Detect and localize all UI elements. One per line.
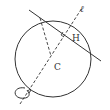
rotation-arrow-icon — [15, 88, 31, 99]
diagram-canvas: ℓ H C — [0, 0, 110, 110]
radius-segment — [40, 18, 51, 56]
point-label-c: C — [54, 62, 61, 72]
secant-line — [29, 10, 101, 61]
point-label-h: H — [72, 33, 80, 43]
axis-label-l: ℓ — [80, 4, 84, 14]
geometry-figure: ℓ H C — [0, 0, 110, 110]
